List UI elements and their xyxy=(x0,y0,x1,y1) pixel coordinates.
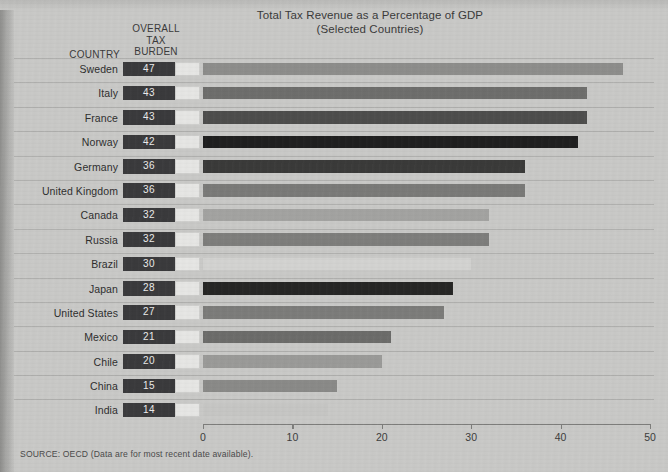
chart-title-main: Total Tax Revenue as a Percentage of GDP xyxy=(257,9,483,21)
country-label: United States xyxy=(14,307,118,320)
value-box-spacer xyxy=(175,305,200,320)
bar xyxy=(203,184,525,197)
bar xyxy=(203,136,578,149)
country-label: France xyxy=(14,112,118,125)
row-separator xyxy=(14,253,654,254)
chart-subtitle: (Selected Countries) xyxy=(205,22,535,36)
bar xyxy=(203,404,328,417)
row-separator xyxy=(14,180,654,181)
x-axis-tick xyxy=(471,424,472,429)
value-box-spacer xyxy=(175,232,200,247)
value-box-spacer xyxy=(175,159,200,174)
chart-row: Italy43 xyxy=(0,82,668,106)
chart-row: China15 xyxy=(0,375,668,399)
chart-rows: Sweden47Italy43France43Norway42Germany36… xyxy=(0,58,668,424)
bar xyxy=(203,111,587,124)
chart-row: Brazil30 xyxy=(0,253,668,277)
x-axis-line xyxy=(203,424,650,425)
row-separator xyxy=(14,375,654,376)
chart-row: Norway42 xyxy=(0,131,668,155)
tax-burden-value: 43 xyxy=(123,110,175,125)
chart-title: Total Tax Revenue as a Percentage of GDP… xyxy=(205,8,535,36)
country-label: Italy xyxy=(14,87,118,100)
chart-row: India14 xyxy=(0,399,668,423)
tax-burden-value: 28 xyxy=(123,281,175,296)
value-box-spacer xyxy=(175,330,200,345)
country-label: Norway xyxy=(14,136,118,149)
x-axis-tick-label: 20 xyxy=(367,431,397,443)
country-label: India xyxy=(14,404,118,417)
row-separator xyxy=(14,156,654,157)
row-separator xyxy=(14,131,654,132)
bar xyxy=(203,233,489,246)
tax-burden-value: 43 xyxy=(123,86,175,101)
tax-burden-value: 47 xyxy=(123,62,175,77)
column-header-tax-burden-line3: BURDEN xyxy=(122,46,190,58)
country-label: Sweden xyxy=(14,63,118,76)
bar xyxy=(203,331,391,344)
x-axis-tick xyxy=(561,424,562,429)
value-box-spacer xyxy=(175,257,200,272)
x-axis-tick-label: 50 xyxy=(635,431,665,443)
x-axis-tick xyxy=(650,424,651,429)
x-axis-tick xyxy=(203,424,204,429)
row-separator xyxy=(14,399,654,400)
country-label: Chile xyxy=(14,356,118,369)
chart-row: Mexico21 xyxy=(0,326,668,350)
country-label: United Kingdom xyxy=(14,185,118,198)
chart-row: United States27 xyxy=(0,302,668,326)
tax-burden-value: 20 xyxy=(123,354,175,369)
row-separator xyxy=(14,204,654,205)
x-axis-tick-label: 10 xyxy=(277,431,307,443)
tax-burden-value: 36 xyxy=(123,159,175,174)
tax-burden-value: 32 xyxy=(123,232,175,247)
x-axis-tick-label: 30 xyxy=(456,431,486,443)
chart-row: Sweden47 xyxy=(0,58,668,82)
tax-burden-value: 14 xyxy=(123,403,175,418)
row-separator xyxy=(14,351,654,352)
country-label: Germany xyxy=(14,161,118,174)
x-axis-tick xyxy=(382,424,383,429)
value-box-spacer xyxy=(175,354,200,369)
chart-page: Total Tax Revenue as a Percentage of GDP… xyxy=(0,0,668,472)
bar xyxy=(203,63,623,76)
country-label: Japan xyxy=(14,283,118,296)
row-separator xyxy=(14,326,654,327)
country-label: China xyxy=(14,380,118,393)
x-axis-tick-label: 0 xyxy=(188,431,218,443)
tax-burden-value: 32 xyxy=(123,208,175,223)
source-note: SOURCE: OECD (Data are for most recent d… xyxy=(20,449,253,459)
tax-burden-value: 30 xyxy=(123,257,175,272)
value-box-spacer xyxy=(175,135,200,150)
bar xyxy=(203,282,453,295)
value-box-spacer xyxy=(175,110,200,125)
x-axis: 01020304050 xyxy=(0,424,668,425)
value-box-spacer xyxy=(175,183,200,198)
tax-burden-value: 42 xyxy=(123,135,175,150)
row-separator xyxy=(14,82,654,83)
value-box-spacer xyxy=(175,208,200,223)
row-separator xyxy=(14,229,654,230)
bar xyxy=(203,209,489,222)
column-header-tax-burden-line2: TAX xyxy=(122,35,190,47)
chart-row: Chile20 xyxy=(0,351,668,375)
row-separator xyxy=(14,278,654,279)
bar xyxy=(203,258,471,271)
column-header-tax-burden-line1: OVERALL xyxy=(122,23,190,35)
country-label: Canada xyxy=(14,209,118,222)
bar xyxy=(203,160,525,173)
value-box-spacer xyxy=(175,281,200,296)
value-box-spacer xyxy=(175,62,200,77)
chart-row: Germany36 xyxy=(0,156,668,180)
bar xyxy=(203,306,444,319)
tax-burden-value: 21 xyxy=(123,330,175,345)
value-box-spacer xyxy=(175,86,200,101)
tax-burden-value: 27 xyxy=(123,305,175,320)
chart-row: Canada32 xyxy=(0,204,668,228)
chart-row: United Kingdom36 xyxy=(0,180,668,204)
chart-row: Japan28 xyxy=(0,278,668,302)
column-header-tax-burden: OVERALL TAX BURDEN xyxy=(122,23,190,58)
x-axis-tick xyxy=(292,424,293,429)
row-separator xyxy=(14,58,654,59)
chart-row: Russia32 xyxy=(0,229,668,253)
